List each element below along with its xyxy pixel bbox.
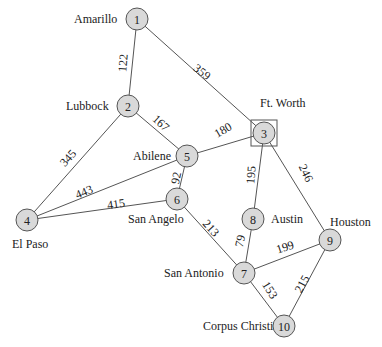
node-10[interactable]: 10 bbox=[273, 315, 295, 337]
edge-weight-label: 167 bbox=[150, 112, 173, 134]
edge-weight-label: 122 bbox=[115, 54, 130, 73]
edge-weight-label: 79 bbox=[232, 234, 248, 249]
edge-weight-label: 215 bbox=[292, 273, 313, 295]
city-label: San Angelo bbox=[128, 212, 184, 226]
edge-weight-label: 195 bbox=[243, 166, 258, 185]
node-6[interactable]: 6 bbox=[166, 188, 188, 210]
node-7[interactable]: 7 bbox=[233, 262, 255, 284]
node-number: 6 bbox=[174, 193, 180, 207]
node-number: 7 bbox=[241, 267, 247, 281]
node-2[interactable]: 2 bbox=[117, 95, 139, 117]
node-3[interactable]: 3 bbox=[253, 122, 275, 144]
node-5[interactable]: 5 bbox=[176, 145, 198, 167]
node-8[interactable]: 8 bbox=[242, 208, 264, 230]
node-number: 5 bbox=[184, 150, 190, 164]
edge-weight-label: 246 bbox=[296, 162, 316, 184]
city-label: Corpus Christi bbox=[203, 319, 274, 333]
city-label: El Paso bbox=[12, 237, 48, 251]
city-label: Houston bbox=[330, 215, 371, 229]
city-label: Amarillo bbox=[74, 12, 117, 26]
edge-weight-label: 199 bbox=[274, 238, 295, 257]
city-label: Abilene bbox=[133, 149, 171, 163]
node-number: 4 bbox=[24, 214, 30, 228]
city-label: Lubbock bbox=[66, 99, 109, 113]
node-number: 8 bbox=[250, 213, 256, 227]
node-number: 9 bbox=[327, 234, 333, 248]
edge-weight-label: 180 bbox=[212, 119, 235, 140]
node-4[interactable]: 4 bbox=[16, 209, 38, 231]
node-number: 3 bbox=[261, 127, 267, 141]
edge-weight-label: 415 bbox=[106, 196, 126, 212]
weight-label-layer: 1223591673451801952464439241521379199153… bbox=[57, 54, 316, 302]
node-9[interactable]: 9 bbox=[319, 229, 341, 251]
city-label: Austin bbox=[271, 212, 303, 226]
city-label: Ft. Worth bbox=[260, 96, 306, 110]
node-number: 1 bbox=[134, 13, 140, 27]
node-number: 2 bbox=[125, 100, 131, 114]
graph-diagram: 1223591673451801952464439241521379199153… bbox=[0, 0, 382, 347]
edge-weight-label: 359 bbox=[191, 61, 214, 83]
edge-weight-label: 92 bbox=[168, 171, 184, 186]
edge-weight-label: 443 bbox=[73, 182, 95, 202]
edge-weight-label: 213 bbox=[200, 217, 222, 240]
city-label: San Antonio bbox=[164, 266, 224, 280]
node-1[interactable]: 1 bbox=[126, 8, 148, 30]
city-label-layer: AmarilloLubbockFt. WorthEl PasoAbileneSa… bbox=[12, 12, 371, 333]
edge-weight-label: 345 bbox=[57, 147, 79, 170]
node-number: 10 bbox=[278, 320, 290, 334]
